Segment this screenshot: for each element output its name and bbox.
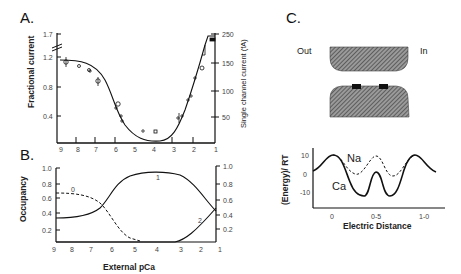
c-xtick: 1-0 <box>419 213 429 220</box>
b-ytick: 0.8 <box>42 181 52 188</box>
a-xtick: 1 <box>214 146 218 153</box>
b-y-axis-label: Occupancy <box>18 176 28 222</box>
figure: A. 1.7 1.2 0.8 0.4 250 150 100 50 <box>0 0 461 274</box>
c-ytick: 0 <box>303 171 307 178</box>
b-x-ticks: 9 8 7 6 5 4 3 2 1 <box>52 246 222 253</box>
b-xtick: 3 <box>179 246 183 253</box>
b-xtick: 1 <box>218 246 222 253</box>
a-xtick: 3 <box>172 146 176 153</box>
b-curve-0-label: 0 <box>71 186 75 193</box>
c-y-axis-label: (Energy)/ RT <box>280 154 290 205</box>
panel-a-label: A. <box>20 9 34 26</box>
a-ytick: 1.7 <box>43 31 53 38</box>
a-ytick: 1.2 <box>43 54 53 61</box>
a-y-axis-label-right: Single channel current (fA) <box>239 39 248 128</box>
b-curve-2 <box>56 208 216 242</box>
ca-label: Ca <box>332 180 347 192</box>
a-x-ticks: 9 8 7 6 5 4 3 2 1 <box>59 137 218 153</box>
a-xtick: 2 <box>192 146 196 153</box>
c-ytick: 10 <box>301 152 309 159</box>
a-xtick: 4 <box>152 146 156 153</box>
a-ytick-right: 100 <box>222 88 234 95</box>
a-xtick: 9 <box>59 146 63 153</box>
panel-c-label: C. <box>286 9 301 26</box>
a-fit-curve <box>60 36 215 141</box>
b-ytick-right: 0.6 <box>223 197 233 204</box>
b-xtick: 2 <box>199 246 203 253</box>
a-ytick-right: 250 <box>222 31 234 38</box>
in-label: In <box>420 46 428 56</box>
b-xtick: 8 <box>70 246 74 253</box>
b-curve-1 <box>56 172 216 218</box>
b-curve-1-label: 1 <box>156 174 160 181</box>
b-right-ticks: 1.0 0.8 0.6 0.4 0.2 <box>216 163 233 233</box>
b-x-axis-label: External pCa <box>103 262 155 272</box>
a-xtick: 7 <box>94 146 98 153</box>
out-label: Out <box>297 46 312 56</box>
a-xtick: 8 <box>76 146 80 153</box>
c-x-axis-label: Electric Distance <box>343 221 412 231</box>
a-left-ticks: 1.7 1.2 0.8 0.4 <box>43 31 61 120</box>
a-data-points <box>64 38 215 133</box>
b-ytick: 1.0 <box>42 165 52 172</box>
b-ytick: 0.4 <box>42 210 52 217</box>
panel-c: C. Out In 10 0 -10 0 0-5 1-0 (Energy)/ R… <box>280 9 445 231</box>
b-xtick: 6 <box>110 246 114 253</box>
binding-site-1 <box>352 84 361 89</box>
channel-wall-bottom <box>330 86 409 117</box>
b-xtick: 7 <box>89 246 93 253</box>
b-xtick: 9 <box>52 246 56 253</box>
b-curve-2-label: 2 <box>198 217 202 224</box>
b-ytick-right: 0.4 <box>223 212 233 219</box>
a-y-axis-label: Fractional current <box>26 36 36 108</box>
b-xtick: 5 <box>133 246 137 253</box>
b-xtick: 4 <box>155 246 159 253</box>
channel-wall-top <box>330 47 408 71</box>
b-ytick: 0.2 <box>42 227 52 234</box>
na-label: Na <box>347 152 362 164</box>
a-ytick-right: 50 <box>222 114 230 121</box>
c-xtick: 0-5 <box>371 213 381 220</box>
a-xtick: 5 <box>133 146 137 153</box>
b-ytick-right: 0.8 <box>223 181 233 188</box>
a-ytick-right: 150 <box>222 60 234 67</box>
c-ytick: -10 <box>300 189 310 196</box>
b-ytick-right: 0.2 <box>223 226 233 233</box>
a-xtick: 6 <box>114 146 118 153</box>
a-ytick: 0.4 <box>43 113 53 120</box>
panel-b-label: B. <box>20 146 34 163</box>
a-ytick: 0.8 <box>43 84 53 91</box>
b-ytick-right: 1.0 <box>223 163 233 170</box>
panel-b: B. 1.0 0.8 0.6 0.4 0.2 1.0 0.8 0.6 0.4 0 <box>18 146 233 272</box>
c-xtick: 0 <box>330 213 334 220</box>
binding-site-2 <box>379 84 388 89</box>
b-left-ticks: 1.0 0.8 0.6 0.4 0.2 <box>42 165 60 234</box>
panel-a: A. 1.7 1.2 0.8 0.4 250 150 100 50 <box>20 9 248 153</box>
b-ytick: 0.6 <box>42 195 52 202</box>
